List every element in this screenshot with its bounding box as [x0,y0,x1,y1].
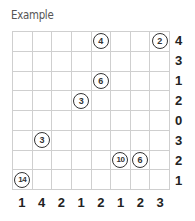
grid-cell[interactable]: 3 [33,131,53,151]
grid-cell[interactable] [13,131,33,151]
grid-cell[interactable]: 14 [13,170,33,190]
grid-cell[interactable] [52,170,72,190]
grid-cell[interactable] [33,91,53,111]
column-clue: 3 [150,195,170,210]
grid-cell[interactable] [111,32,131,52]
grid-cell[interactable] [111,72,131,92]
number-circle: 6 [93,73,109,89]
column-clue: 4 [32,195,52,210]
grid-cell[interactable]: 10 [111,151,131,171]
column-clue: 2 [131,195,151,210]
grid-cell[interactable] [52,52,72,72]
grid-cell[interactable] [92,91,112,111]
grid-cell[interactable] [52,72,72,92]
grid-cell[interactable] [131,72,151,92]
grid-cell[interactable]: 6 [92,72,112,92]
grid-cell[interactable] [92,52,112,72]
grid-cell[interactable] [72,131,92,151]
grid-cell[interactable] [92,170,112,190]
grid-cell[interactable] [111,170,131,190]
row-clue: 2 [175,91,182,111]
grid-cell[interactable] [33,151,53,171]
grid-cell[interactable] [13,32,33,52]
grid-cell[interactable] [13,52,33,72]
grid-cell[interactable] [150,91,170,111]
number-circle: 3 [34,132,50,148]
grid-cell[interactable] [13,91,33,111]
grid-cell[interactable]: 2 [150,32,170,52]
grid-cell[interactable] [150,72,170,92]
grid-cell[interactable] [72,111,92,131]
grid-cell[interactable]: 4 [92,32,112,52]
grid-cell[interactable] [72,170,92,190]
grid-cell[interactable] [33,32,53,52]
grid-cell[interactable] [111,111,131,131]
column-clue: 2 [52,195,72,210]
grid-cell[interactable] [33,52,53,72]
grid-cell[interactable] [52,32,72,52]
grid-cell[interactable] [111,91,131,111]
column-clue: 1 [71,195,91,210]
grid-cell[interactable] [72,72,92,92]
grid-cell[interactable] [131,91,151,111]
grid-cell[interactable] [111,52,131,72]
grid-cell[interactable] [150,170,170,190]
grid-cell[interactable] [150,151,170,171]
grid-cell[interactable] [131,52,151,72]
number-circle: 14 [14,172,30,188]
grid-cell[interactable] [13,111,33,131]
grid-cell[interactable] [52,131,72,151]
column-clue: 1 [12,195,32,210]
column-clue: 1 [111,195,131,210]
row-clue: 3 [175,51,182,71]
number-circle: 10 [112,152,128,168]
grid-cell[interactable] [150,111,170,131]
grid-cell[interactable] [13,72,33,92]
grid-cell[interactable] [150,52,170,72]
row-clue: 0 [175,111,182,131]
row-clue: 1 [175,71,182,91]
column-clues: 14212123 [12,195,170,210]
grid-cell[interactable] [111,131,131,151]
grid-cell[interactable] [33,111,53,131]
grid-cell[interactable] [131,131,151,151]
grid-cell[interactable] [13,151,33,171]
grid-cell[interactable] [72,151,92,171]
row-clue: 4 [175,31,182,51]
grid-cell[interactable]: 6 [131,151,151,171]
puzzle-title: Example [11,8,53,22]
grid-cell[interactable] [131,170,151,190]
grid-cell[interactable] [52,151,72,171]
grid-cell[interactable] [131,32,151,52]
grid-cell[interactable] [150,131,170,151]
number-circle: 6 [132,152,148,168]
grid-cell[interactable]: 3 [72,91,92,111]
grid-cell[interactable] [52,111,72,131]
grid-cell[interactable] [72,52,92,72]
grid-cell[interactable] [92,151,112,171]
number-circle: 3 [73,93,89,109]
row-clue: 2 [175,150,182,170]
puzzle-grid: 4263310614 [12,31,170,190]
grid-cell[interactable] [92,131,112,151]
number-circle: 4 [93,33,109,49]
number-circle: 2 [152,33,168,49]
grid-cell[interactable] [33,72,53,92]
grid-cell[interactable] [131,111,151,131]
row-clues: 43120321 [175,31,182,190]
column-clue: 2 [91,195,111,210]
row-clue: 3 [175,130,182,150]
grid-cell[interactable] [72,32,92,52]
grid-cell[interactable] [52,91,72,111]
row-clue: 1 [175,170,182,190]
grid-cell[interactable] [92,111,112,131]
grid-cell[interactable] [33,170,53,190]
